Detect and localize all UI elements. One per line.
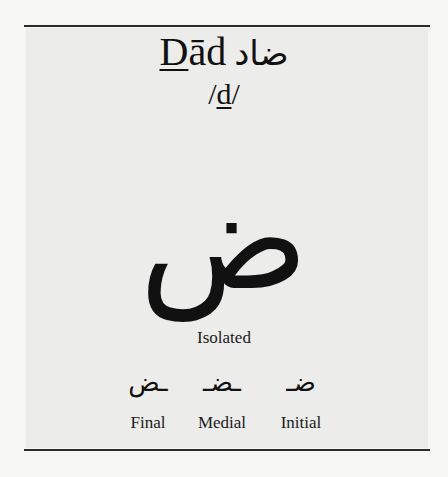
top-rule: [24, 25, 430, 27]
isolated-form-label: Isolated: [174, 328, 274, 348]
initial-form-label: Initial: [266, 413, 336, 433]
final-form-glyph: ـض: [113, 365, 183, 399]
final-form-label: Final: [113, 413, 183, 433]
letter-name-arabic: ضاد: [234, 33, 288, 73]
letter-title: Dādضاد: [0, 30, 448, 75]
isolated-form-glyph: ض: [0, 160, 448, 320]
ipa-transcription: /d/: [0, 77, 448, 111]
bottom-rule: [24, 449, 430, 451]
medial-form-glyph: ـضـ: [187, 365, 257, 399]
letter-name-latin: Dād: [159, 29, 226, 74]
initial-form-glyph: ضـ: [266, 365, 336, 399]
medial-form-label: Medial: [187, 413, 257, 433]
